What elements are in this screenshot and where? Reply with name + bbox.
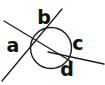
angle-label-d: d <box>60 58 74 80</box>
geometry-figure: a b c d <box>0 0 105 85</box>
angle-label-a: a <box>7 34 20 56</box>
angle-label-c: c <box>72 32 83 54</box>
angle-diagram: a b c d <box>0 0 105 85</box>
angle-label-b: b <box>37 6 51 28</box>
